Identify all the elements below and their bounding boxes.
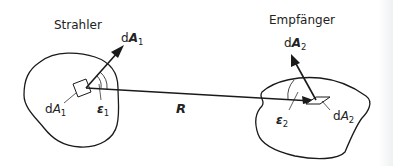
receiver-area-label: dA2 — [333, 109, 354, 125]
emitter-area-label: dA1 — [45, 102, 66, 118]
receiver-vector-label: dA2 — [284, 36, 306, 52]
receiver-angle-leader — [289, 92, 298, 110]
distance-label: R — [176, 101, 186, 116]
emitter-area-leader — [64, 93, 76, 103]
emitter-normal-arrowhead — [111, 45, 124, 58]
radiation-exchange-diagram: Strahler dA1 dA1 ε1 R Empfänger dA2 ε2 d… — [0, 0, 393, 166]
receiver-normal-arrowhead — [291, 54, 300, 67]
emitter-angle-label: ε1 — [97, 102, 109, 118]
page-edge-shadow — [379, 0, 393, 166]
receiver-angle-arc — [288, 80, 294, 99]
emitter-vector-label: dA1 — [121, 31, 143, 47]
receiver-angle-label: ε2 — [276, 113, 288, 129]
emitter-angle-leader — [99, 84, 101, 100]
distance-line — [86, 88, 312, 101]
receiver-area-leader — [322, 101, 330, 110]
receiver-normal-vector — [295, 62, 316, 100]
emitter-title: Strahler — [54, 18, 102, 32]
receiver-title: Empfänger — [269, 13, 335, 27]
